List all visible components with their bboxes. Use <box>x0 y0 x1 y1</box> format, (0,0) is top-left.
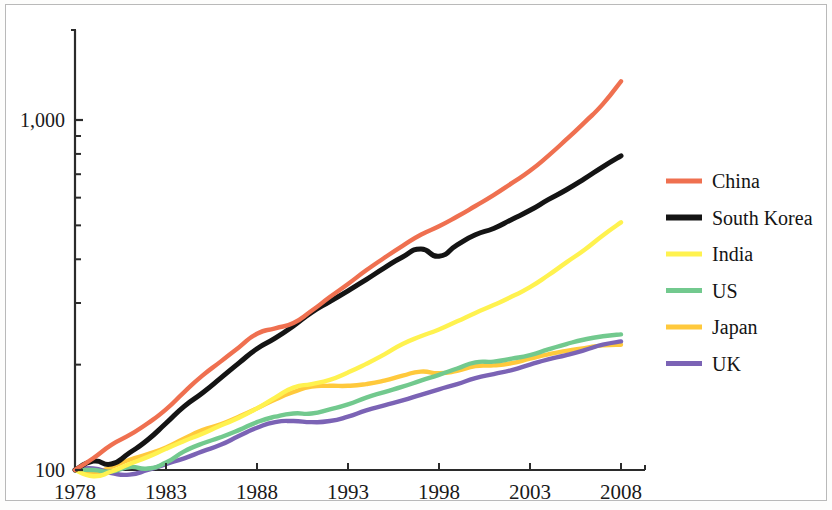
x-tick-label: 1988 <box>236 480 278 504</box>
x-tick-label: 2003 <box>509 480 551 504</box>
legend-item-south-korea: South Korea <box>666 207 813 229</box>
legend-label: US <box>712 280 738 302</box>
chart-page: 1978198319881993199820032008 1,000100 Ch… <box>0 0 832 510</box>
legend-item-china: China <box>666 170 760 192</box>
legend-label: India <box>712 243 753 265</box>
series-line-south-korea <box>75 156 621 470</box>
y-axis-ticks: 1,000100 <box>20 109 83 481</box>
legend-item-uk: UK <box>666 353 741 375</box>
series-lines <box>75 81 621 476</box>
line-chart: 1978198319881993199820032008 1,000100 Ch… <box>0 0 832 510</box>
y-tick-label: 100 <box>35 459 65 481</box>
x-tick-label: 1993 <box>327 480 369 504</box>
legend-item-us: US <box>666 280 738 302</box>
x-tick-label: 1983 <box>145 480 187 504</box>
legend-label: UK <box>712 353 741 375</box>
x-tick-label: 1978 <box>54 480 96 504</box>
legend: ChinaSouth KoreaIndiaUSJapanUK <box>666 170 813 375</box>
series-line-china <box>75 81 621 470</box>
y-tick-label: 1,000 <box>20 109 65 131</box>
series-line-india <box>75 222 621 476</box>
x-tick-label: 1998 <box>418 480 460 504</box>
legend-item-japan: Japan <box>666 316 758 339</box>
legend-label: China <box>712 170 760 192</box>
legend-item-india: India <box>666 243 753 265</box>
legend-label: South Korea <box>712 207 813 229</box>
axes <box>71 30 645 470</box>
legend-label: Japan <box>712 316 758 339</box>
x-tick-label: 2008 <box>600 480 642 504</box>
